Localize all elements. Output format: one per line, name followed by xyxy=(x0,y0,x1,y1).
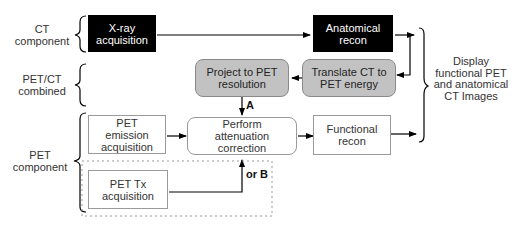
connector-layer xyxy=(0,0,517,228)
edge-label-or-b: or B xyxy=(246,168,268,180)
edge-label-a: A xyxy=(246,99,254,111)
node-project-to-pet-resolution: Project to PET resolution xyxy=(195,59,289,97)
node-anatomical-recon: Anatomical recon xyxy=(313,15,393,52)
group-label-pet: PET component xyxy=(8,149,72,173)
node-xray-acquisition: X-ray acquisition xyxy=(88,15,156,52)
node-pet-emission-acquisition: PET emission acquisition xyxy=(88,115,166,154)
group-label-petct: PET/CT combined xyxy=(14,73,70,97)
node-translate-ct-to-pet-energy: Translate CT to PET energy xyxy=(302,59,396,97)
output-label: Display functional PET and anatomical CT… xyxy=(429,56,513,102)
group-label-ct: CT component xyxy=(14,23,70,47)
node-functional-recon: Functional recon xyxy=(313,115,391,155)
node-perform-attenuation-correction: Perform attenuation correction xyxy=(187,117,297,155)
node-pet-tx-acquisition: PET Tx acquisition xyxy=(88,170,168,209)
